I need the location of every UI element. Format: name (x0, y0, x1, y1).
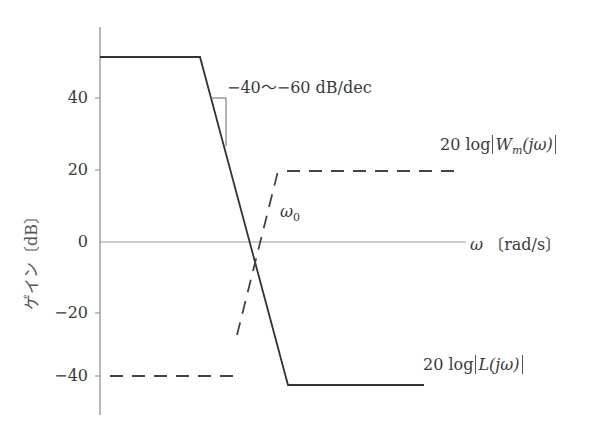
loop-gain-label: 20 logL(jω) (423, 355, 523, 374)
loop-gain-curve (100, 57, 424, 385)
ytick-20: 20 (48, 160, 88, 179)
weight-curve-rise (237, 171, 278, 335)
ytick-minus-40: −40 (48, 366, 88, 385)
omega0-label: ω0 (280, 202, 300, 224)
ytick-minus-20: −20 (48, 303, 88, 322)
ytick-0: 0 (48, 232, 88, 251)
ytick-40: 40 (48, 88, 88, 107)
weight-curve-label: 20 logWm(jω) (440, 135, 556, 157)
x-axis-label: ω 〔rad/s〕 (470, 231, 561, 255)
slope-label: −40〜−60 dB/dec (227, 74, 372, 98)
bode-diagram: 40 20 0 −20 −40 ゲイン〔dB〕 −40〜−60 dB/dec ω… (0, 0, 604, 439)
y-axis-label: ゲイン〔dB〕 (18, 208, 42, 310)
